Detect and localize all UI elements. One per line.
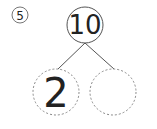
whole-value: 10 bbox=[68, 10, 101, 40]
connector-line-left bbox=[58, 43, 85, 69]
whole-circle: 10 bbox=[67, 7, 103, 43]
connector-line-right bbox=[85, 43, 114, 69]
problem-number: 5 bbox=[16, 9, 24, 23]
part-left-value: 2 bbox=[43, 70, 68, 116]
number-bond-diagram: 5 10 2 bbox=[0, 0, 157, 129]
part-circle-left: 2 bbox=[33, 69, 79, 116]
part-circle-right[interactable] bbox=[90, 69, 136, 115]
problem-number-badge: 5 bbox=[12, 7, 28, 23]
